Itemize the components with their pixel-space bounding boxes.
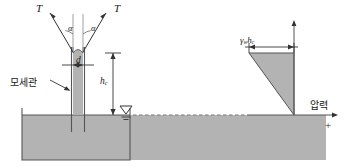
- pressure-vertical-axis-arrowhead: [292, 20, 297, 26]
- pressure-horizontal-axis-arrowhead: [332, 113, 338, 118]
- pressure-magnitude-label: γwhc: [240, 35, 254, 45]
- pressure-triangle: [249, 53, 294, 115]
- height-dimension-group: [105, 53, 121, 115]
- figure-canvas: [0, 0, 348, 168]
- pressure-axis-label: 압력: [310, 97, 328, 112]
- capillary-rise-figure: T T α α d hc 모세관 γwhc 압력 +: [0, 0, 348, 168]
- height-arrowhead-top: [110, 53, 115, 59]
- reservoir-group: [22, 108, 326, 160]
- capillary-tube-label: 모세관: [10, 74, 37, 89]
- angle-label-left: α: [68, 23, 72, 33]
- pressure-sign-label: +: [325, 119, 331, 131]
- capillary-height-subscript: c: [105, 80, 108, 86]
- surface-tension-group: [50, 13, 106, 52]
- tension-label-right: T: [114, 2, 120, 14]
- diameter-label: d: [76, 55, 81, 65]
- capillary-height-label: hc: [100, 76, 107, 86]
- height-arrowhead-bottom: [110, 109, 115, 115]
- tension-label-left: T: [36, 2, 42, 14]
- capillary-label-leader-group: [50, 80, 71, 91]
- capillary-leader-arrowhead: [64, 86, 71, 91]
- reservoir-water-fill: [22, 115, 326, 160]
- pressure-height-subscript: c: [252, 39, 254, 45]
- angle-label-right: α: [91, 23, 95, 33]
- angle-arc-right: [83, 31, 91, 35]
- pressure-dimension-arrowhead-right: [288, 44, 294, 49]
